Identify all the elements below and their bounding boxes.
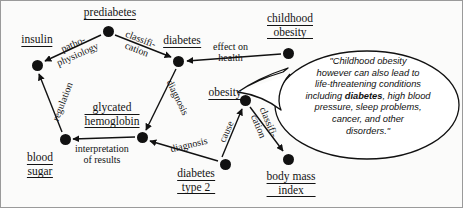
node-label-body-mass-index: body mass index [267,170,316,197]
node-label-childhood-obesity: childhood obesity [267,12,313,39]
callout-line-7: disorders." [288,126,448,138]
callout-emphasis-diabetes: diabetes [345,91,383,101]
node-dot-insulin[interactable] [32,60,43,71]
node-label-prediabetes: prediabetes [84,6,136,20]
edge-label-effect-on-health: effect on health [213,41,248,63]
node-label-glycated-hemoglobin: glycated hemoglobin [85,101,140,128]
edge-interpretation-of-results [73,137,135,139]
node-dot-diabetes[interactable] [173,56,184,67]
node-dot-glycated-hemoglobin[interactable] [137,132,148,143]
node-label-obesity: obesity [208,86,241,100]
callout-line-2: however can also lead to [288,68,448,80]
node-label-diabetes: diabetes [163,34,201,48]
callout-line-5: pressure, sleep problems, [288,102,448,114]
node-label-blood-sugar: blood sugar [27,151,53,178]
node-dot-diabetes-type-2[interactable] [220,159,231,170]
node-dot-prediabetes[interactable] [103,26,114,37]
callout-line-3: life-threatening conditions [288,79,448,91]
callout-line-1: "Childhood obesity [288,56,448,68]
callout-line-6: cancer, and other [288,114,448,126]
node-dot-body-mass-index[interactable] [283,154,294,165]
node-dot-blood-sugar[interactable] [60,134,71,145]
callout-bubble-text: "Childhood obesity however can also lead… [288,56,448,137]
node-label-insulin: insulin [21,33,52,47]
callout-line-4-post: , high blood [382,91,430,101]
callout-line-4-pre: including [305,91,344,101]
node-label-diabetes-type-2: diabetes type 2 [177,167,215,194]
edge-label-interpretation-of-results: interpretation of results [75,143,129,165]
callout-line-4: including diabetes, high blood [288,91,448,103]
concept-map-canvas: insulin prediabetes diabetes childhood o… [0,0,463,208]
